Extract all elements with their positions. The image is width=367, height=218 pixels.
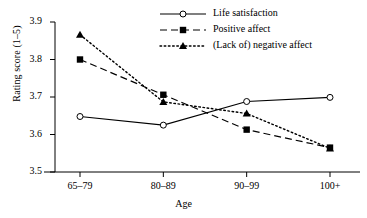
legend-item-label: Positive affect <box>213 23 270 34</box>
y-tick-marks <box>50 22 55 172</box>
y-tick-label: 3.8 <box>12 53 42 64</box>
x-tick-label: 90–99 <box>217 180 277 191</box>
axis-lines <box>44 22 360 172</box>
x-tick-label: 65–79 <box>50 180 110 191</box>
series-1 <box>77 56 333 151</box>
legend-item-label: Life satisfaction <box>213 7 278 18</box>
x-tick-label: 100+ <box>300 180 360 191</box>
y-tick-label: 3.9 <box>12 15 42 26</box>
series-0 <box>77 94 333 128</box>
x-tick-label: 80–89 <box>133 180 193 191</box>
y-tick-label: 3.5 <box>12 165 42 176</box>
x-tick-marks <box>80 172 330 177</box>
figure: Rating score (1–5) Age 3.53.63.73.83.9 6… <box>0 0 367 218</box>
legend-item-label: (Lack of) negative affect <box>213 39 312 50</box>
x-axis-label: Age <box>0 198 367 209</box>
y-tick-label: 3.7 <box>12 90 42 101</box>
legend-markers <box>160 11 206 49</box>
y-tick-label: 3.6 <box>12 128 42 139</box>
